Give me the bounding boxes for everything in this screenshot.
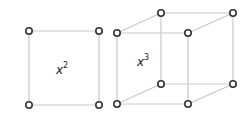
square-vertex xyxy=(26,28,32,34)
cube-vertex xyxy=(158,81,164,87)
cube-vertex xyxy=(114,30,120,36)
square-vertex xyxy=(26,102,32,108)
cube-vertex xyxy=(158,10,164,16)
square-figure: x2 xyxy=(26,28,102,108)
cube-vertex xyxy=(230,81,236,87)
cube-edge xyxy=(188,84,233,104)
cube-edge xyxy=(117,84,161,104)
cube-vertex xyxy=(185,101,191,107)
cube-label: x3 xyxy=(136,53,149,69)
diagram-canvas: x2 x3 xyxy=(0,0,247,115)
cube-vertex xyxy=(185,30,191,36)
cube-front-face xyxy=(117,33,188,104)
cube-vertex xyxy=(230,10,236,16)
cube-back-face xyxy=(161,13,233,84)
cube-edge xyxy=(117,13,161,33)
square-label: x2 xyxy=(55,61,68,77)
cube-figure: x3 xyxy=(114,10,236,107)
square-vertex xyxy=(96,28,102,34)
cube-vertex xyxy=(114,101,120,107)
square-vertex xyxy=(96,102,102,108)
cube-edge xyxy=(188,13,233,33)
